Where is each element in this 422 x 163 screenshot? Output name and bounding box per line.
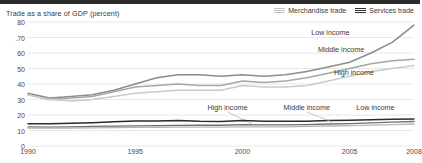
- y-axis: 80.706050403020100: [0, 22, 25, 146]
- plot-area: Low incomeMiddle incomeHigh incomeHigh i…: [28, 22, 414, 146]
- series-annotation-2: High income: [334, 67, 374, 76]
- x-axis-tick-label: 2000: [235, 148, 251, 155]
- annotation-leader-line: [227, 112, 255, 126]
- x-axis-tick-label: 2008: [406, 148, 422, 155]
- y-axis-tick-label: 40: [17, 81, 25, 88]
- y-axis-tick-label: 80: [17, 19, 25, 26]
- plot-svg: [28, 22, 414, 146]
- x-axis-tick-label: 1990: [20, 148, 36, 155]
- y-axis-tick-label: 50: [17, 65, 25, 72]
- x-axis-tick-label: 1995: [127, 148, 143, 155]
- y-axis-tick-label: .70: [15, 34, 25, 41]
- series-annotation-3: High income: [207, 103, 247, 112]
- y-axis-tick-label: 30: [17, 96, 25, 103]
- chart-axis-title: Trade as a share of GDP (percent): [6, 9, 120, 18]
- top-rule-divider: [0, 0, 420, 4]
- y-axis-tick-label: 60: [17, 50, 25, 57]
- chart-legend: Merchandise trade Services trade: [274, 7, 414, 14]
- series-line-1: [28, 59, 414, 99]
- x-axis-tick-label: 2005: [342, 148, 358, 155]
- series-line-0: [28, 25, 414, 98]
- x-axis: 19901995200020052008: [0, 148, 420, 160]
- series-annotation-1: Middle income: [318, 45, 364, 54]
- legend-item-services-trade: Services trade: [355, 7, 414, 14]
- legend-item-merchandise-trade: Merchandise trade: [274, 7, 346, 14]
- series-annotation-4: Middle income: [284, 103, 330, 112]
- legend-label-merchandise: Merchandise trade: [288, 7, 346, 14]
- series-annotation-5: Low income: [356, 103, 394, 112]
- legend-swatch-merchandise-icon: [274, 8, 285, 14]
- series-annotation-0: Low income: [311, 28, 349, 37]
- y-axis-tick-label: 10: [17, 127, 25, 134]
- legend-label-services: Services trade: [369, 7, 414, 14]
- y-axis-tick-label: 20: [17, 112, 25, 119]
- legend-swatch-services-icon: [355, 8, 366, 14]
